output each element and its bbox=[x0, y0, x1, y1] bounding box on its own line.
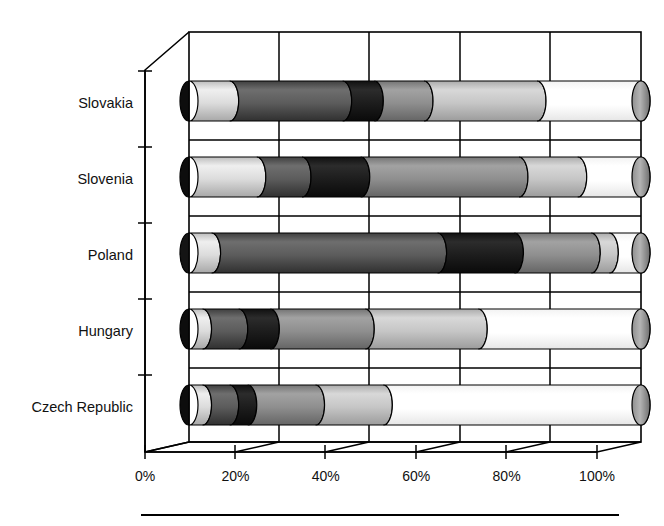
stacked-cylinder-chart: 0%20%40%60%80%100% SlovakiaSloveniaPolan… bbox=[0, 0, 664, 526]
bar-end-cap bbox=[632, 385, 650, 425]
bar-end-cap bbox=[632, 81, 650, 121]
x-tick-label: 100% bbox=[579, 468, 615, 484]
bar-start-cap bbox=[180, 385, 189, 425]
bar-segment bbox=[230, 81, 352, 121]
x-tick-labels: 0%20%40%60%80%100% bbox=[135, 468, 615, 484]
plot-floor bbox=[145, 442, 641, 452]
bar-end-cap bbox=[632, 157, 650, 197]
bar-segment bbox=[519, 157, 587, 197]
bar-segment bbox=[438, 233, 524, 273]
bar-segment bbox=[248, 385, 325, 425]
bar-segment bbox=[374, 81, 433, 121]
bar-end-cap bbox=[632, 233, 650, 273]
bar-segment bbox=[361, 157, 528, 197]
x-tick-label: 40% bbox=[312, 468, 340, 484]
category-label-slovenia: Slovenia bbox=[77, 171, 134, 187]
bar-segment bbox=[189, 157, 266, 197]
x-tick-label: 60% bbox=[402, 468, 430, 484]
bar-poland bbox=[180, 233, 650, 273]
bar-segment bbox=[514, 233, 600, 273]
bar-start-cap bbox=[180, 157, 189, 197]
bar-segment bbox=[383, 385, 650, 425]
bar-start-cap bbox=[180, 233, 189, 273]
x-tick-label: 80% bbox=[493, 468, 521, 484]
category-label-czech-republic: Czech Republic bbox=[31, 399, 133, 415]
x-tick-label: 0% bbox=[135, 468, 155, 484]
bar-slovakia bbox=[180, 81, 650, 121]
bar-start-cap bbox=[180, 309, 189, 349]
bar-segment bbox=[316, 385, 393, 425]
bar-segment bbox=[270, 309, 374, 349]
category-labels: SlovakiaSloveniaPolandHungaryCzech Repub… bbox=[31, 95, 133, 415]
bar-segment bbox=[302, 157, 370, 197]
bar-czech-republic bbox=[180, 385, 650, 425]
bar-segment bbox=[365, 309, 487, 349]
category-label-hungary: Hungary bbox=[78, 323, 134, 339]
category-label-slovakia: Slovakia bbox=[78, 95, 134, 111]
bar-hungary bbox=[180, 309, 650, 349]
bar-segment bbox=[424, 81, 546, 121]
bar-segment bbox=[478, 309, 650, 349]
chart-root: 0%20%40%60%80%100% SlovakiaSloveniaPolan… bbox=[0, 0, 664, 526]
bar-start-cap bbox=[180, 81, 189, 121]
category-label-poland: Poland bbox=[88, 247, 133, 263]
bar-slovenia bbox=[180, 157, 650, 197]
bar-end-cap bbox=[632, 309, 650, 349]
bar-segment bbox=[212, 233, 447, 273]
x-tick-label: 20% bbox=[221, 468, 249, 484]
